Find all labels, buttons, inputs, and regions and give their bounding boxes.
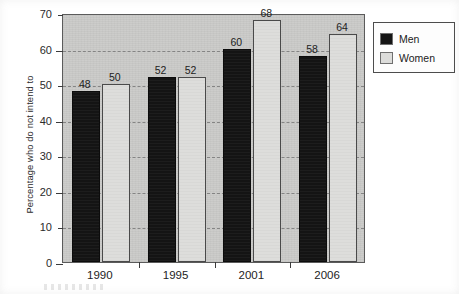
y-tick-label-60: 60: [18, 44, 52, 56]
y-tick-label-40: 40: [18, 115, 52, 127]
y-tick-40: [56, 122, 63, 123]
bar-men-2006: [299, 56, 327, 262]
y-tick-0: [56, 264, 63, 265]
y-tick-label-30: 30: [18, 150, 52, 162]
x-category-label-1995: 1995: [138, 269, 214, 281]
bar-value-label-women-2001: 68: [246, 7, 286, 19]
x-category-label-1990: 1990: [62, 269, 138, 281]
bar-women-2006: [329, 34, 357, 262]
bar-chart-figure: Percentage who do not intend to Men Wome…: [0, 0, 459, 294]
y-tick-label-70: 70: [18, 8, 52, 20]
bar-value-label-women-1995: 52: [171, 64, 211, 76]
bar-value-label-women-2006: 64: [322, 21, 362, 33]
bar-women-1995: [178, 77, 206, 262]
y-tick-label-50: 50: [18, 79, 52, 91]
bar-value-label-men-2001: 60: [216, 36, 256, 48]
x-category-label-2006: 2006: [289, 269, 365, 281]
bar-women-2001: [253, 20, 281, 262]
y-tick-10: [58, 228, 63, 229]
black-square-icon: [380, 33, 393, 45]
bar-men-1995: [148, 77, 176, 262]
x-category-label-2001: 2001: [214, 269, 290, 281]
y-tick-label-20: 20: [18, 186, 52, 198]
x-group-separator-2: [215, 262, 216, 268]
y-tick-50: [58, 86, 63, 87]
bar-men-2001: [223, 49, 251, 262]
bar-value-label-men-2006: 58: [292, 43, 332, 55]
y-tick-60: [56, 51, 63, 52]
legend-label-women: Women: [399, 52, 435, 64]
y-tick-30: [58, 157, 63, 158]
y-tick-label-10: 10: [18, 221, 52, 233]
bar-value-label-women-1990: 50: [95, 71, 135, 83]
legend-label-men: Men: [399, 33, 419, 45]
bar-men-1990: [72, 91, 100, 262]
y-tick-20: [56, 193, 63, 194]
scan-artifact: [44, 284, 104, 290]
legend-item-men: Men: [380, 29, 454, 48]
x-group-separator-3: [290, 262, 291, 268]
x-group-separator-1: [139, 262, 140, 268]
bar-women-1990: [102, 84, 130, 262]
y-tick-label-0: 0: [18, 257, 52, 269]
y-tick-70: [58, 15, 63, 16]
legend-item-women: Women: [380, 48, 454, 67]
light-gray-square-icon: [380, 52, 393, 64]
chart-legend: Men Women: [373, 22, 455, 73]
